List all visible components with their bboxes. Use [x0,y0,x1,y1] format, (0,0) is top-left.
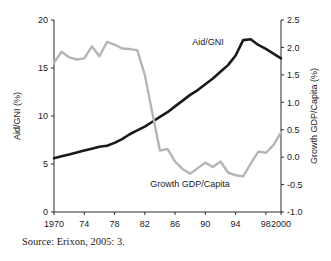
x-tick-label: 86 [170,219,180,229]
right-tick-label: -1.0 [287,207,303,217]
chart-plot-area: 05101520 -1.0-0.50.00.51.01.52.02.5 1970… [0,0,331,232]
left-tick-label: 15 [38,63,48,73]
x-tick-label: 1970 [44,219,64,229]
x-axis: 1970747882869094982000 [44,212,291,229]
series-annotations: Aid/GNIGrowth GDP/Capita [150,37,230,189]
series-annotation-growth: Growth GDP/Capita [150,179,230,189]
x-tick-label: 78 [110,219,120,229]
right-axis: -1.0-0.50.00.51.01.52.02.5 [281,15,303,217]
source-note: Source: Erixon, 2005: 3. [22,236,125,247]
left-tick-label: 20 [38,15,48,25]
series-line-aid-gni [54,39,281,158]
right-tick-label: 1.5 [287,70,300,80]
series-lines [54,39,281,176]
left-tick-label: 10 [38,111,48,121]
right-axis-title: Growth GDP/Capita (%) [309,68,319,164]
left-tick-label: 5 [43,159,48,169]
x-tick-label: 82 [140,219,150,229]
series-line-growth-gdp-capita [54,42,281,176]
right-tick-label: 2.5 [287,15,300,25]
x-tick-label: 2000 [271,219,291,229]
right-tick-label: 2.0 [287,43,300,53]
figure-container: 05101520 -1.0-0.50.00.51.01.52.02.5 1970… [0,0,331,261]
line-chart: 05101520 -1.0-0.50.00.51.01.52.02.5 1970… [0,0,331,232]
left-axis: 05101520 [38,15,54,217]
right-tick-label: 0.5 [287,125,300,135]
x-tick-label: 74 [79,219,89,229]
left-axis-title: Aid/GNI (%) [12,92,22,140]
series-annotation-aid-gni: Aid/GNI [192,37,224,47]
right-tick-label: 0.0 [287,152,300,162]
x-tick-label: 90 [200,219,210,229]
right-tick-label: 1.0 [287,98,300,108]
left-tick-label: 0 [43,207,48,217]
right-tick-label: -0.5 [287,180,303,190]
x-tick-label: 94 [231,219,241,229]
x-tick-label: 98 [261,219,271,229]
